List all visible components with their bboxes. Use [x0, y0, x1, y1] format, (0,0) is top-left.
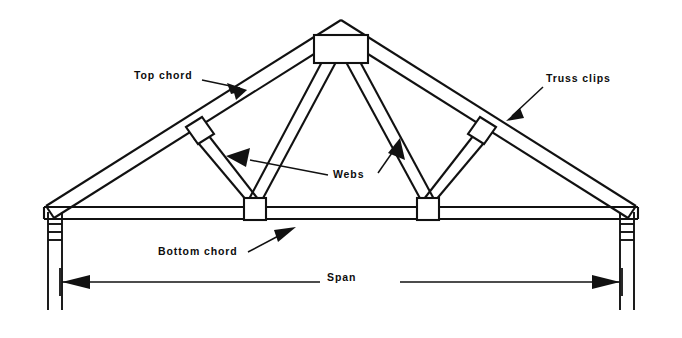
truss-diagram: Top chord Truss clips Webs Bottom chord … [0, 0, 682, 338]
web-inner-left [248, 58, 336, 202]
leader-bottom-chord [248, 227, 296, 252]
truss-clip-left [186, 117, 214, 144]
joint-plate-left [244, 198, 266, 220]
leader-webs-right [378, 138, 405, 173]
apex-gusset-plate [314, 35, 368, 63]
web-inner-right [346, 58, 435, 202]
label-truss-clips: Truss clips [546, 73, 611, 84]
top-chord-left [46, 20, 341, 218]
label-webs: Webs [333, 169, 364, 180]
label-bottom-chord: Bottom chord [158, 246, 238, 257]
label-span: Span [327, 272, 356, 283]
top-chord-right [341, 20, 636, 218]
truss-clip-right [468, 117, 496, 144]
bottom-chord-member [44, 207, 638, 219]
leader-truss-clips [506, 87, 543, 121]
joint-plate-right [417, 198, 439, 220]
label-top-chord: Top chord [134, 70, 193, 81]
